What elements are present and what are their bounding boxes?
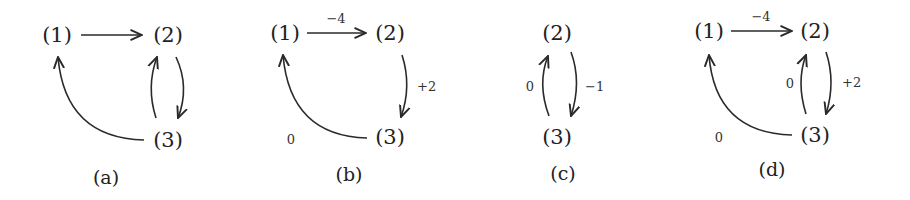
caption-c: (c) bbox=[550, 162, 575, 184]
caption-d: (d) bbox=[759, 158, 786, 180]
node-2: (2) bbox=[800, 19, 830, 43]
node-1: (1) bbox=[42, 23, 72, 47]
diagram-b: (1) (2) (3) −4 +2 0 (b) bbox=[270, 11, 436, 185]
node-1: (1) bbox=[270, 21, 300, 45]
edge-weight-1-2: −4 bbox=[751, 9, 770, 24]
edge-2-to-3 bbox=[571, 52, 577, 116]
node-3: (3) bbox=[153, 128, 183, 152]
edge-weight-3-2: 0 bbox=[526, 79, 534, 94]
edge-weight-2-3: −1 bbox=[585, 79, 604, 94]
node-3: (3) bbox=[800, 123, 830, 147]
edge-3-to-1 bbox=[58, 57, 144, 140]
edge-weight-3-2: 0 bbox=[786, 76, 794, 91]
edge-2-to-3 bbox=[176, 57, 184, 118]
edge-2-to-3 bbox=[826, 52, 831, 114]
edge-3-to-1 bbox=[709, 55, 792, 135]
node-3: (3) bbox=[542, 125, 572, 149]
node-1: (1) bbox=[694, 19, 724, 43]
node-3: (3) bbox=[375, 125, 405, 149]
node-2: (2) bbox=[153, 23, 183, 47]
caption-a: (a) bbox=[93, 166, 119, 188]
edge-weight-2-3: +2 bbox=[842, 75, 861, 90]
edge-3-to-2 bbox=[801, 55, 806, 114]
edge-3-to-2 bbox=[543, 56, 549, 116]
edge-weight-3-1: 0 bbox=[715, 130, 723, 145]
caption-b: (b) bbox=[336, 163, 363, 185]
node-2: (2) bbox=[375, 21, 405, 45]
edge-weight-3-1: 0 bbox=[287, 132, 295, 147]
edge-weight-2-3: +2 bbox=[417, 79, 436, 94]
diagram-a: (1) (2) (3) (a) bbox=[42, 23, 183, 188]
edge-2-to-3 bbox=[401, 55, 407, 117]
diagram-d: (1) (2) (3) −4 +2 0 0 (d) bbox=[694, 9, 861, 180]
edge-weight-1-2: −4 bbox=[326, 11, 345, 26]
edge-3-to-1 bbox=[283, 55, 367, 138]
node-2: (2) bbox=[542, 21, 572, 45]
diagram-canvas: (1) (2) (3) (a) (1) (2) (3) −4 +2 0 (b) … bbox=[0, 0, 910, 200]
diagram-c: (2) (3) −1 0 (c) bbox=[526, 21, 604, 184]
edge-3-to-2 bbox=[151, 57, 157, 118]
